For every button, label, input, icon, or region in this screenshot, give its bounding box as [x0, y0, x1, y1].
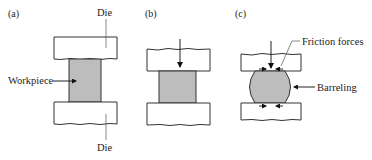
top-die-label: Die	[97, 7, 113, 18]
top-die	[54, 37, 117, 60]
bottom-die-label: Die	[97, 142, 113, 153]
panel-b-label: (b)	[145, 8, 157, 20]
panel-c-label: (c)	[235, 8, 246, 20]
workpiece	[159, 71, 196, 103]
panel-a-label: (a)	[8, 8, 19, 20]
bottom-die	[241, 103, 301, 121]
barreling-label: Barreling	[317, 82, 357, 93]
friction-label: Friction forces	[302, 36, 364, 47]
bottom-die	[147, 103, 210, 126]
panel-a: (a) Die Workpiece Die	[8, 7, 117, 153]
upsetting-diagram: (a) Die Workpiece Die (b) (c)	[0, 0, 372, 160]
bottom-die	[54, 102, 117, 125]
panel-b: (b)	[145, 8, 210, 126]
top-die	[147, 49, 210, 72]
barreled-workpiece	[250, 71, 291, 103]
panel-c: (c) Friction forces Barreling	[235, 8, 364, 121]
workpiece-label: Workpiece	[8, 75, 54, 86]
